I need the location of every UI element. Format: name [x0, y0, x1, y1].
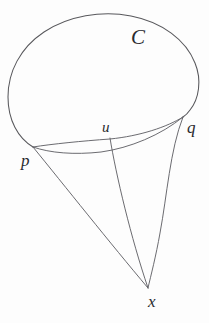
- diagram-svg: [0, 0, 209, 323]
- label-u: u: [102, 120, 110, 135]
- label-p: p: [21, 152, 30, 169]
- label-q: q: [187, 119, 196, 136]
- geodesic-p-x-path: [33, 147, 148, 288]
- geodesic-q-x-path: [148, 117, 183, 288]
- figure-canvas: C u q p x: [0, 0, 209, 323]
- label-x: x: [148, 293, 156, 310]
- label-C: C: [131, 27, 145, 48]
